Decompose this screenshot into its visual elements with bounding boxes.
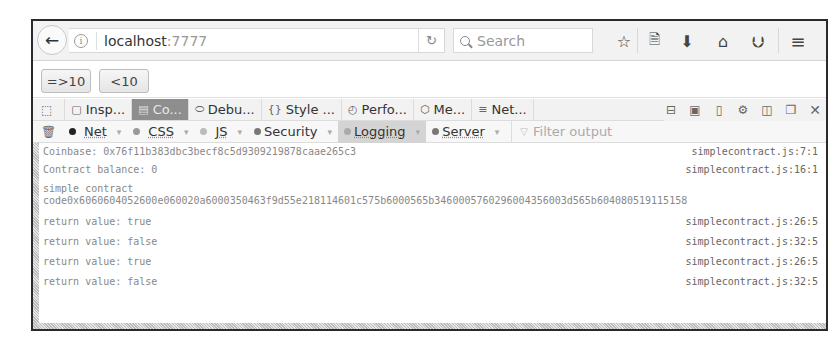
tab-inspector[interactable]: ▢Insp... [65,99,132,120]
url-bar[interactable]: i localhost:7777 ↻ [69,28,445,53]
navigation-toolbar: i localhost:7777 ↻ ← Search ☆ 🗎 ⬇ ⌂ ⮋ ≡ [33,21,826,61]
element-picker-icon[interactable]: ⬚ [33,99,65,120]
log-source-link[interactable]: simplecontract.js:32:5 [686,276,818,287]
funnel-icon: ▽ [520,126,528,137]
log-row: Contract balance: 0simplecontract.js:16:… [33,161,826,181]
filter-label: CSS [148,124,174,139]
log-row: Coinbase: 0x76f11b383dbc3becf8c5d9309219… [33,143,826,161]
tab-label: Perfo... [362,102,407,117]
style-editor-icon: {} [268,103,282,116]
search-placeholder: Search [477,33,525,49]
tab-label: Me... [434,102,466,117]
filter-dot-icon [200,128,207,135]
settings-gear-icon[interactable]: ⚙ [736,103,750,117]
dock-side-icon[interactable]: ◫ [760,103,774,117]
toolbar-separator [637,28,638,53]
greater-equal-10-button[interactable]: =>10 [41,69,91,93]
back-button[interactable]: ← [37,25,67,55]
info-icon[interactable]: i [74,34,88,48]
filter-css[interactable]: CSS▾ [127,121,194,143]
filter-dot-icon [69,128,76,135]
browser-window: i localhost:7777 ↻ ← Search ☆ 🗎 ⬇ ⌂ ⮋ ≡ … [31,19,828,331]
filter-label: JS [215,124,227,139]
tab-network[interactable]: ≡Net... [472,99,533,120]
tab-memory[interactable]: ⬡Me... [414,99,472,120]
page-content: =>10 <10 [33,61,826,98]
console-output: Coinbase: 0x76f11b383dbc3becf8c5d9309219… [33,143,826,293]
log-source-link[interactable]: simplecontract.js:32:5 [686,236,818,247]
filter-server[interactable]: Server▾ [426,121,505,143]
tab-label: Co... [153,102,182,117]
pocket-icon[interactable]: ⮋ [747,30,769,52]
toolbar-separator [778,28,779,53]
filter-placeholder: Filter output [533,124,612,139]
search-bar[interactable]: Search [453,28,593,53]
filter-label: Server [442,124,485,139]
log-source-link[interactable]: simplecontract.js:26:5 [686,216,818,227]
scratchpad-icon[interactable]: ▣ [688,103,702,117]
close-icon[interactable]: ✕ [808,102,822,118]
filter-net[interactable]: Net▾ [63,121,127,143]
log-source-link[interactable]: simplecontract.js:16:1 [686,164,818,175]
filter-security[interactable]: Security▾ [248,121,338,143]
chevron-down-icon: ▾ [495,127,500,137]
memory-icon: ⬡ [420,103,430,116]
chevron-down-icon: ▾ [416,127,421,137]
filter-label: Logging [354,124,406,139]
chevron-down-icon: ▾ [238,127,243,137]
devtools-toolbar-right: ⊟ ▣ ▯ ⚙ ◫ ❐ ✕ [664,99,826,121]
chevron-down-icon: ▾ [184,127,189,137]
chevron-down-icon: ▾ [328,127,333,137]
back-arrow-icon: ← [45,30,59,50]
tab-label: Style ... [286,102,335,117]
inspector-icon: ▢ [71,103,81,116]
performance-icon: ◴ [348,103,358,116]
filter-label: Net [84,124,107,139]
chevron-down-icon: ▾ [117,127,122,137]
reload-icon[interactable]: ↻ [418,29,444,52]
menu-icon[interactable]: ≡ [787,30,809,52]
console-icon: ▤ [138,103,148,116]
filter-js[interactable]: JS▾ [194,121,248,143]
network-icon: ≡ [478,103,487,116]
search-icon [460,36,470,46]
download-icon[interactable]: ⬇ [676,30,698,52]
console-bottom-scrollbar[interactable] [33,323,826,329]
debugger-icon: ⬭ [195,103,204,116]
split-console-icon[interactable]: ⊟ [664,103,678,117]
log-row: return value: truesimplecontract.js:26:5 [33,213,826,233]
url-separator [96,32,97,50]
filter-dot-icon [133,128,140,135]
filter-dot-icon [254,128,261,135]
devtools-panel: ⬚ ▢Insp... ▤Co... ⬭Debu... {}Style ... ◴… [33,99,826,329]
tab-debugger[interactable]: ⬭Debu... [189,99,262,120]
devtools-tab-bar: ⬚ ▢Insp... ▤Co... ⬭Debu... {}Style ... ◴… [33,99,826,121]
tab-label: Insp... [86,102,126,117]
tab-style-editor[interactable]: {}Style ... [262,99,342,120]
filter-logging[interactable]: Logging▾ [338,121,426,143]
responsive-mode-icon[interactable]: ▯ [712,103,726,117]
tab-performance[interactable]: ◴Perfo... [342,99,414,120]
log-row: return value: falsesimplecontract.js:32:… [33,273,826,293]
url-port: :7777 [167,33,207,49]
tab-label: Debu... [208,102,255,117]
filter-label: Security [264,124,317,139]
home-icon[interactable]: ⌂ [712,30,734,52]
undock-window-icon[interactable]: ❐ [784,103,798,117]
url-host: localhost [104,33,167,49]
log-row: simple contract code0x6060604052600e0600… [33,181,826,213]
tab-console[interactable]: ▤Co... [132,99,189,120]
less-than-10-button[interactable]: <10 [99,69,149,93]
filter-dot-icon [432,128,439,135]
log-message: simple contract code0x6060604052600e0600… [43,183,826,207]
log-source-link[interactable]: simplecontract.js:26:5 [686,256,818,267]
log-source-link[interactable]: simplecontract.js:7:1 [692,146,818,157]
log-row: return value: falsesimplecontract.js:32:… [33,233,826,253]
filter-output-input[interactable]: ▽Filter output [511,121,826,143]
console-filter-bar: 🗑 Net▾ CSS▾ JS▾ Security▾ Logging▾ Serve… [33,121,826,143]
log-row: return value: truesimplecontract.js:26:5 [33,253,826,273]
trash-icon[interactable]: 🗑 [33,125,63,139]
tab-label: Net... [491,102,526,117]
bookmark-star-icon[interactable]: ☆ [613,30,635,52]
reading-list-icon[interactable]: 🗎 [643,30,665,52]
